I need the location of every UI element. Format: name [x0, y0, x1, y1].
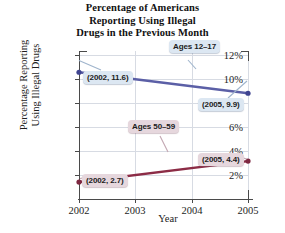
point-label-2002-ages-12-17: (2002, 11.6) [83, 71, 133, 84]
data-point-2002-ages-12-17 [76, 70, 81, 75]
point-label-2005-ages-12-17: (2005, 9.9) [198, 98, 244, 111]
series-label-ages-12-17: Ages 12–17 [169, 40, 220, 53]
data-point-2005-ages-12-17 [245, 91, 250, 96]
chart-title-line-2: Reporting Using Illegal [0, 15, 285, 28]
chart-title-line-1: Percentage of Americans [0, 2, 285, 15]
data-point-2002-ages-50-59 [76, 179, 81, 184]
x-axis-title: Year [78, 213, 258, 224]
chart-title: Percentage of Americans Reporting Using … [0, 2, 285, 40]
series-label-ages-50-59: Ages 50–59 [128, 120, 179, 133]
point-label-2002-ages-50-59: (2002, 2.7) [82, 174, 128, 187]
chart-title-line-3: Drugs in the Previous Month [0, 27, 285, 40]
point-label-2005-ages-50-59: (2005, 4.4) [198, 153, 244, 166]
chart-figure: Percentage of Americans Reporting Using … [0, 0, 285, 233]
data-point-2005-ages-50-59 [245, 158, 250, 163]
y-axis-title: Percentage Reporting Using Illegal Drugs [18, 5, 42, 165]
frame-corner-top-left [79, 51, 87, 52]
y-axis-title-line-2: Using Illegal Drugs [30, 5, 42, 165]
y-axis-title-line-1: Percentage Reporting [18, 5, 30, 165]
